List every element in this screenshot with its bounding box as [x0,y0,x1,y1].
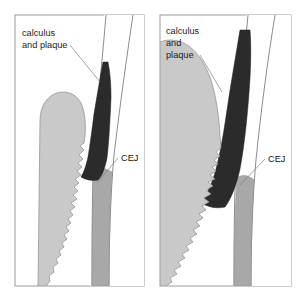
illustration-canvas: calculus and plaque CEJ [0,0,306,302]
right-calculus-label-line1: calculus [166,26,200,36]
right-calculus-label-line3: plaque [166,50,194,60]
dental-illustration-figure: calculus and plaque CEJ [0,0,306,302]
left-panel: calculus and plaque CEJ [15,15,144,286]
left-calculus-label-line1: calculus [22,28,56,38]
left-cej-label: CEJ [121,153,138,163]
right-calculus-label-line2: and [166,38,181,48]
left-root-surface [92,168,112,286]
right-panel: calculus and plaque CEJ [160,15,291,286]
right-cej-label: CEJ [268,154,285,164]
left-calculus-label-line2: and plaque [22,40,67,50]
right-root-surface [234,176,254,286]
